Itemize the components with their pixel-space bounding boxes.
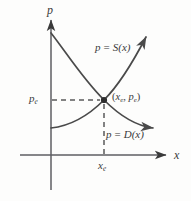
demand-label-variable: p	[106, 128, 112, 140]
supply-demand-figure: p x p=S(x) p=D(x) (xe, pe) pe xe	[0, 0, 191, 201]
horizontal-axis-label: x	[174, 149, 179, 161]
equilibrium-point-label: (xe, pe)	[112, 92, 140, 104]
supply-label-equals: =	[104, 41, 110, 53]
supply-label-variable: p	[95, 41, 101, 53]
quantity-tick-subscript: e	[103, 165, 106, 173]
price-tick-subscript: e	[35, 98, 38, 106]
supply-curve-label: p=S(x)	[95, 42, 130, 53]
supply-label-expression: S(x)	[113, 41, 131, 53]
demand-label-equals: =	[115, 128, 121, 140]
equilibrium-price-tick-label: pe	[29, 93, 38, 106]
demand-curve-label: p=D(x)	[106, 129, 144, 140]
paren-close: )	[137, 91, 141, 102]
demand-label-expression: D(x)	[124, 128, 144, 140]
vertical-axis-label: p	[47, 4, 53, 16]
equilibrium-quantity-tick-label: xe	[98, 160, 106, 173]
equilibrium-point-marker	[101, 97, 107, 103]
